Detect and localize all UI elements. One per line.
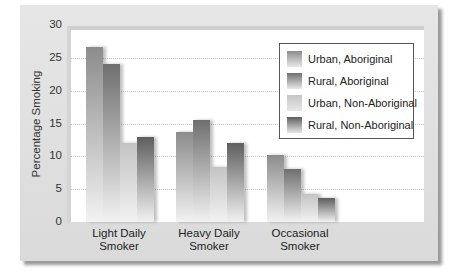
bar	[301, 194, 318, 222]
bar	[120, 143, 137, 222]
bar	[210, 167, 227, 222]
legend-label: Rural, Non-Aboriginal	[308, 119, 413, 131]
y-tick-label: 25	[34, 51, 62, 63]
legend-label: Rural, Aboriginal	[308, 75, 389, 87]
y-tick-label: 15	[34, 117, 62, 129]
bar	[176, 132, 193, 222]
x-tick-label: Light DailySmoker	[74, 227, 164, 253]
y-tick-label: 30	[34, 18, 62, 30]
bar	[103, 64, 120, 222]
bar	[193, 120, 210, 222]
x-tick-label: OccasionalSmoker	[255, 227, 345, 253]
y-tick-label: 20	[34, 84, 62, 96]
legend-swatch	[287, 117, 302, 133]
legend-swatch	[287, 51, 302, 67]
legend-item: Urban, Aboriginal	[287, 51, 392, 67]
legend-swatch	[287, 73, 302, 89]
bar	[284, 169, 301, 222]
legend-label: Urban, Non-Aboriginal	[308, 97, 417, 109]
legend-swatch	[287, 95, 302, 111]
bar	[267, 155, 284, 222]
y-tick-label: 10	[34, 149, 62, 161]
legend-label: Urban, Aboriginal	[308, 53, 392, 65]
bar	[227, 143, 244, 222]
legend-item: Rural, Aboriginal	[287, 73, 389, 89]
y-tick-label: 0	[34, 215, 62, 227]
legend-item: Rural, Non-Aboriginal	[287, 117, 413, 133]
legend-item: Urban, Non-Aboriginal	[287, 95, 417, 111]
legend: Urban, AboriginalRural, AboriginalUrban,…	[279, 43, 414, 139]
bar	[318, 198, 335, 222]
bar	[137, 137, 154, 222]
y-tick-label: 5	[34, 182, 62, 194]
bar	[86, 47, 103, 222]
x-tick-label: Heavy DailySmoker	[164, 227, 254, 253]
